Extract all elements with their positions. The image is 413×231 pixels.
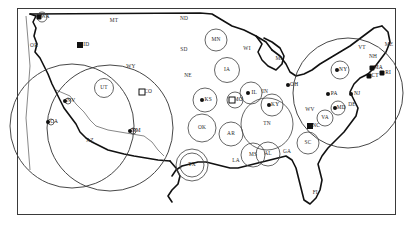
state-label-mt: MT [110,18,119,23]
state-label-il: IL [251,90,257,95]
state-label-nv: NV [67,98,75,103]
state-label-la: LA [232,158,240,163]
marker-il [246,91,250,95]
marker-nc [307,123,313,129]
state-label-nc: NC [312,123,320,128]
state-label-pa: PA [331,91,338,96]
state-label-or: OR [30,43,38,48]
marker-nv [63,99,67,103]
state-label-ia: IA [224,67,230,72]
state-label-de: DE [348,102,356,107]
proportional-circles-layer [37,12,349,181]
marker-wa [37,15,42,20]
marker-mo [229,97,236,104]
marker-oh [286,83,290,87]
state-label-tn: TN [263,121,271,126]
state-label-va: VA [321,115,329,120]
state-label-me: ME [385,42,394,47]
marker-ks [200,98,204,102]
state-label-az: AZ [86,138,94,143]
state-label-ar: AR [227,131,235,136]
state-label-ut: UT [100,85,108,90]
state-label-nh: NH [369,54,377,59]
state-label-fl: FL [313,190,320,195]
state-label-ri: RI [385,70,391,75]
marker-co [139,89,146,96]
state-label-ok: OK [198,125,206,130]
state-label-vt: VT [358,45,366,50]
map-figure: WAORMTIDWYNDSDNEMNIAWIMIUTNVCACOAZNMKSMO… [0,0,413,231]
marker-ct [367,74,372,79]
map-canvas [0,0,413,231]
state-label-ms: MS [249,152,257,157]
state-label-wi: WI [243,46,250,51]
marker-nm [128,129,132,133]
state-label-ct: CT [372,73,379,78]
state-label-oh: OH [290,82,298,87]
state-label-mi: MI [276,56,283,61]
state-label-md: MD [337,105,346,110]
state-label-nd: ND [180,16,188,21]
state-label-ky: KY [271,102,279,107]
marker-md [333,106,337,110]
state-label-nj: NJ [354,91,360,96]
state-label-wv: WV [305,107,314,112]
state-label-ne: NE [184,73,192,78]
state-label-ga: GA [283,149,291,154]
marker-ma [370,66,375,71]
large-circle-west-large-2 [47,65,173,191]
state-label-ks: KS [205,97,212,102]
state-label-tx: TX [188,162,196,167]
state-label-id: ID [83,42,89,47]
marker-ky [267,103,271,107]
state-label-wy: WY [126,64,135,69]
marker-ca [46,120,50,124]
state-label-al: AL [264,151,272,156]
state-label-sc: SC [305,140,312,145]
marker-ny [335,68,339,72]
state-label-ny: NY [339,67,347,72]
marker-ri [380,71,385,76]
state-label-in: IN [262,89,268,94]
marker-pa [326,92,330,96]
state-label-sd: SD [180,47,187,52]
marker-nj [349,92,353,96]
state-label-wa: WA [41,14,50,19]
large-circle-northeast-large [293,38,403,148]
state-label-ca: CA [50,119,58,124]
marker-id [77,42,83,48]
state-label-mn: MN [211,37,220,42]
state-label-nm: NM [132,128,141,133]
